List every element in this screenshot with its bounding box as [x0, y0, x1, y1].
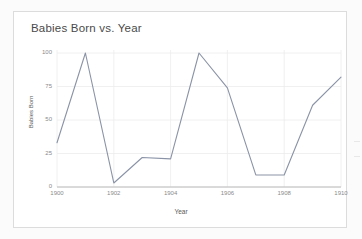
- x-tick-1906: 1906: [212, 190, 242, 196]
- chart-card: Babies Born vs. Year 0255075100 19001902…: [13, 11, 347, 228]
- x-tick-1900: 1900: [42, 190, 72, 196]
- scan-artifact-lower: [354, 156, 360, 157]
- y-tick-100: 100: [30, 49, 52, 55]
- y-axis-title: Babies Born: [28, 82, 34, 142]
- x-tick-1908: 1908: [269, 190, 299, 196]
- y-tick-25: 25: [30, 150, 52, 156]
- x-axis-title: Year: [14, 208, 348, 215]
- x-tick-1904: 1904: [156, 190, 186, 196]
- y-tick-0: 0: [30, 183, 52, 189]
- data-series-line: [57, 53, 341, 183]
- x-tick-1902: 1902: [99, 190, 129, 196]
- x-tick-1910: 1910: [326, 190, 356, 196]
- scan-artifact-upper: [354, 141, 360, 142]
- line-chart-plot: [14, 12, 348, 229]
